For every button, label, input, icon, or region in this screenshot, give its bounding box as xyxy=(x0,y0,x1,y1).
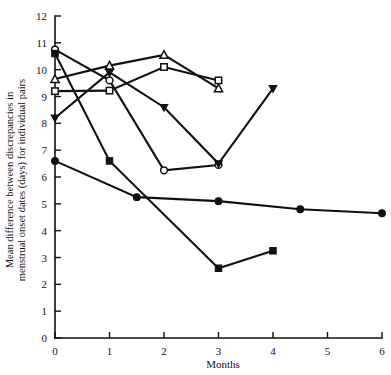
x-tick-label: 4 xyxy=(270,345,276,357)
data-point-filled-square xyxy=(270,248,276,254)
series-open-triangle xyxy=(55,55,219,89)
markers-open-circle xyxy=(52,46,222,174)
y-tick-label: 2 xyxy=(42,278,48,290)
x-tick-label: 3 xyxy=(216,345,222,357)
markers-filled-triangle xyxy=(51,70,277,168)
x-tick-label: 1 xyxy=(107,345,113,357)
y-axis-title-line1: Mean difference between discrepancies in xyxy=(4,91,15,268)
y-tick-label: 3 xyxy=(42,252,48,264)
y-tick-label: 6 xyxy=(42,171,48,183)
data-point-open-triangle xyxy=(160,51,168,59)
y-tick-label: 4 xyxy=(42,225,48,237)
data-point-filled-circle xyxy=(215,198,222,205)
data-point-filled-square xyxy=(106,158,112,164)
line-chart: 01234567891011120123456 Months Mean diff… xyxy=(0,0,391,375)
axis-labels: Months Mean difference between discrepan… xyxy=(4,79,240,370)
y-tick-label: 5 xyxy=(42,198,48,210)
data-point-filled-circle xyxy=(297,206,304,213)
series-line-open-circle xyxy=(55,50,219,171)
axes: 01234567891011120123456 xyxy=(36,10,385,357)
data-point-open-triangle xyxy=(214,84,222,92)
y-tick-label: 8 xyxy=(42,117,48,129)
x-tick-label: 5 xyxy=(325,345,331,357)
data-series-group xyxy=(51,46,386,271)
y-tick-label: 12 xyxy=(36,10,47,22)
data-point-open-circle xyxy=(161,167,168,174)
series-line-open-square xyxy=(55,67,219,91)
data-point-open-triangle xyxy=(51,75,59,83)
series-open-circle xyxy=(55,50,219,171)
data-point-open-triangle xyxy=(105,61,113,69)
x-tick-label: 0 xyxy=(52,345,58,357)
markers-filled-square xyxy=(52,50,276,271)
series-line-open-triangle xyxy=(55,55,219,89)
data-point-open-square xyxy=(52,88,58,94)
markers-open-triangle xyxy=(51,51,223,92)
chart-container: 01234567891011120123456 Months Mean diff… xyxy=(0,0,391,375)
x-axis-title: Months xyxy=(206,358,240,370)
data-point-filled-square xyxy=(215,265,221,271)
y-tick-label: 11 xyxy=(36,37,47,49)
data-point-filled-circle xyxy=(133,194,140,201)
y-tick-label: 10 xyxy=(36,64,48,76)
y-tick-label: 9 xyxy=(42,91,48,103)
series-open-square xyxy=(55,67,219,91)
data-point-filled-square xyxy=(52,50,58,56)
data-point-open-square xyxy=(215,77,221,83)
series-filled-square xyxy=(55,54,273,269)
data-point-filled-circle xyxy=(379,210,386,217)
data-point-open-square xyxy=(106,87,112,93)
x-tick-label: 6 xyxy=(379,345,385,357)
y-axis-title-line2: menstrual onset dates (days) for individ… xyxy=(16,79,28,281)
series-line-filled-square xyxy=(55,54,273,269)
y-tick-label: 0 xyxy=(42,332,48,344)
data-point-open-circle xyxy=(106,77,113,84)
data-point-filled-triangle xyxy=(51,115,59,122)
x-tick-label: 2 xyxy=(161,345,167,357)
data-point-filled-circle xyxy=(52,158,59,165)
y-tick-label: 1 xyxy=(42,305,48,317)
data-point-open-square xyxy=(161,64,167,70)
y-tick-label: 7 xyxy=(42,144,48,156)
